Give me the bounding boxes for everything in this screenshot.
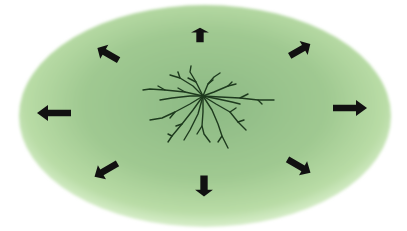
diagram-canvas <box>0 0 407 231</box>
